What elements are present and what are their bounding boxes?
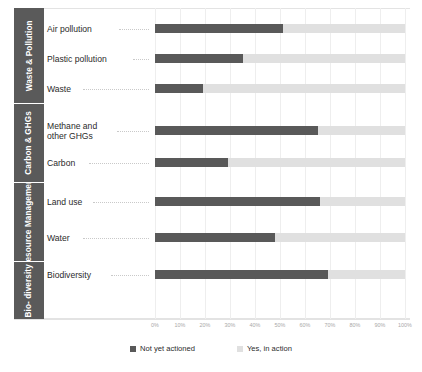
bar-segment-not-yet-actioned (155, 126, 318, 135)
chart-legend: Not yet actioned Yes, in action (0, 344, 422, 353)
leader-dots (133, 59, 149, 60)
bar-segment-yes-in-action (243, 54, 406, 63)
leader-dots (89, 163, 149, 164)
legend-label: Not yet actioned (140, 344, 195, 353)
x-axis-tick-70pct: 70% (325, 322, 336, 328)
legend-item-yes-in-action[interactable]: Yes, in action (237, 344, 292, 353)
x-axis-tick-50pct: 50% (275, 322, 286, 328)
category-label-text: Waste (47, 84, 71, 94)
bar-air-pollution[interactable] (155, 24, 405, 33)
x-axis-tick-30pct: 30% (225, 322, 236, 328)
leader-dots (111, 275, 149, 276)
category-label-text: Air pollution (47, 24, 92, 34)
stacked-bar-chart: Waste & Pollution Carbon & GHGs Resource… (0, 0, 422, 372)
bar-segment-yes-in-action (328, 270, 406, 279)
group-band-label: Waste & Pollution (24, 20, 34, 91)
group-band-label: Carbon & GHGs (24, 111, 34, 175)
group-band-resource-management: Resource Management (14, 183, 44, 261)
bar-segment-yes-in-action (320, 197, 405, 206)
bar-segment-not-yet-actioned (155, 233, 275, 242)
category-label-column: Air pollution Plastic pollution Waste Me… (47, 8, 151, 319)
bar-segment-not-yet-actioned (155, 84, 203, 93)
leader-dots (93, 202, 149, 203)
legend-label: Yes, in action (247, 344, 292, 353)
bar-plastic-pollution[interactable] (155, 54, 405, 63)
bar-waste[interactable] (155, 84, 405, 93)
category-label-text: Plastic pollution (47, 54, 107, 64)
x-axis-tick-0pct: 0% (151, 322, 159, 328)
legend-swatch-icon (130, 346, 136, 352)
x-axis-tick-40pct: 40% (250, 322, 261, 328)
x-axis-tick-90pct: 90% (375, 322, 386, 328)
x-axis-tick-80pct: 80% (350, 322, 361, 328)
bar-segment-yes-in-action (228, 158, 406, 167)
gridline-100 (405, 8, 406, 319)
bar-segment-yes-in-action (318, 126, 406, 135)
leader-dots (83, 238, 149, 239)
leader-dots (83, 89, 149, 90)
plot-area (155, 8, 405, 319)
bar-segment-not-yet-actioned (155, 197, 320, 206)
group-column: Waste & Pollution Carbon & GHGs Resource… (14, 8, 44, 319)
bar-segment-not-yet-actioned (155, 270, 328, 279)
bar-biodiversity[interactable] (155, 270, 405, 279)
bar-segment-yes-in-action (275, 233, 405, 242)
legend-item-not-yet-actioned[interactable]: Not yet actioned (130, 344, 195, 353)
x-axis-tick-10pct: 10% (175, 322, 186, 328)
x-axis-tick-100pct: 100% (398, 322, 412, 328)
bar-land-use[interactable] (155, 197, 405, 206)
category-label-text: Carbon (47, 158, 75, 168)
category-label-text: Biodiversity (47, 270, 91, 280)
bar-segment-not-yet-actioned (155, 24, 283, 33)
x-axis-line (14, 319, 410, 320)
category-label-text: Land use (47, 197, 82, 207)
bar-methane-other-ghgs[interactable] (155, 126, 405, 135)
category-label-text: Water (47, 233, 70, 243)
legend-swatch-icon (237, 346, 243, 352)
leader-dots (117, 131, 149, 132)
bar-segment-not-yet-actioned (155, 54, 243, 63)
category-label-text: Methane and other GHGs (47, 121, 97, 142)
group-band-waste-pollution: Waste & Pollution (14, 8, 44, 103)
group-band-label: Resource Management (24, 183, 34, 261)
leader-dots (119, 29, 149, 30)
group-band-carbon-ghgs: Carbon & GHGs (14, 104, 44, 182)
bar-segment-yes-in-action (283, 24, 406, 33)
x-axis-tick-20pct: 20% (200, 322, 211, 328)
bar-water[interactable] (155, 233, 405, 242)
x-axis-tick-60pct: 60% (300, 322, 311, 328)
bar-carbon[interactable] (155, 158, 405, 167)
bar-segment-not-yet-actioned (155, 158, 228, 167)
bar-segment-yes-in-action (203, 84, 406, 93)
group-band-label: Bio- diversity (24, 264, 34, 317)
group-band-biodiversity: Bio- diversity (14, 262, 44, 319)
